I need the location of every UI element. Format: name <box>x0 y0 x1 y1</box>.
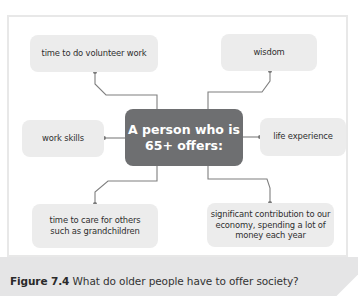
node-label-line: economy, spending a lot of <box>211 220 331 231</box>
node-volunteer-work: time to do volunteer work <box>30 35 158 72</box>
node-label-line: time to care for others <box>50 215 141 227</box>
figure-caption: Figure 7.4 What do older people have to … <box>10 275 299 287</box>
node-label: work skills <box>42 133 84 145</box>
figure-caption-text: What do older people have to offer socie… <box>69 275 298 287</box>
central-node-line-1: A person who is <box>128 122 240 138</box>
central-node: A person who is 65+ offers: <box>125 109 243 166</box>
node-economic-contribution: significant contribution to our economy,… <box>207 203 334 247</box>
node-label-line: money each year <box>211 230 331 241</box>
node-work-skills: work skills <box>22 120 104 157</box>
node-wisdom: wisdom <box>221 34 317 71</box>
node-label: time to do volunteer work <box>42 48 147 60</box>
central-node-line-2: 65+ offers: <box>128 138 240 154</box>
figure-label: Figure 7.4 <box>10 275 69 287</box>
node-label: wisdom <box>253 47 284 59</box>
node-label: life experience <box>273 131 333 143</box>
node-life-experience: life experience <box>260 118 346 156</box>
node-care-for-others: time to care for others such as grandchi… <box>32 204 158 248</box>
node-label-line: such as grandchildren <box>50 226 141 238</box>
node-label-line: significant contribution to our <box>211 209 331 220</box>
